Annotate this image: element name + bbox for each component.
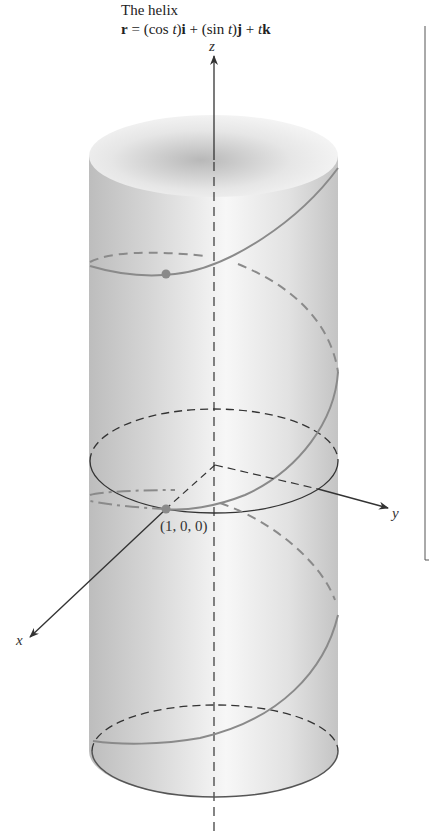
side-bracket xyxy=(425,26,429,560)
point-upper xyxy=(162,270,171,279)
x-axis-label: x xyxy=(15,632,23,648)
y-axis-label: y xyxy=(390,505,399,521)
point-1-0-0 xyxy=(162,505,171,514)
helix-diagram: z y x (1, 0, 0) xyxy=(0,0,429,839)
point-label: (1, 0, 0) xyxy=(160,518,208,535)
z-axis-label: z xyxy=(208,38,215,54)
